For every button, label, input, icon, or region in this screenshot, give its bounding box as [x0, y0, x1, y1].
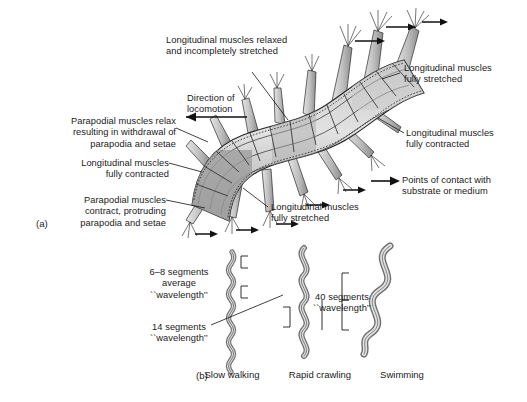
label-wavelength-14-segments: 14 segments ``wavelength’’	[124, 322, 234, 345]
caption-rapid-crawling: Rapid crawling	[271, 369, 369, 380]
figure-root: Longitudinal muscles relaxed and incompl…	[0, 0, 527, 402]
caption-swimming: Swimming	[362, 369, 442, 380]
legend-points-of-contact: Points of contact with substrate or medi…	[402, 175, 524, 198]
panel-tag-a: (a)	[36, 218, 48, 229]
label-longitudinal-relaxed: Longitudinal muscles relaxed and incompl…	[166, 35, 336, 58]
label-longitudinal-stretched-right: Longitudinal muscles fully stretched	[404, 63, 522, 86]
label-wavelength-6-8-segments: 6–8 segments average ``wavelength’’	[124, 267, 234, 301]
label-parapodial-muscles-relax: Parapodial muscles relax resulting in wi…	[14, 116, 176, 150]
label-longitudinal-contracted-left: Longitudinal muscles fully contracted	[14, 158, 169, 181]
caption-slow-walking: Slow walking	[188, 369, 276, 380]
label-longitudinal-stretched-bottom: Longitudinal muscles fully stretched	[271, 202, 393, 225]
label-wavelength-40-segments: 40 segments ``wavelength’’	[292, 292, 392, 315]
label-direction-of-locomotion: Direction of locomotion	[187, 93, 269, 116]
label-longitudinal-contracted-right: Longitudinal muscles fully contracted	[406, 128, 524, 151]
